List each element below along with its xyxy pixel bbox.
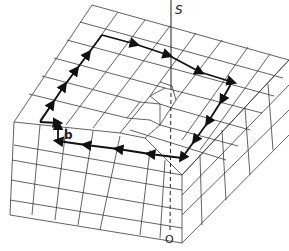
front-left-face-grid (10, 122, 182, 243)
screw-dislocation-diagram (0, 0, 289, 251)
label-s: S (175, 3, 183, 17)
label-burgers-vector: b (64, 128, 73, 142)
label-o: O (165, 233, 174, 246)
